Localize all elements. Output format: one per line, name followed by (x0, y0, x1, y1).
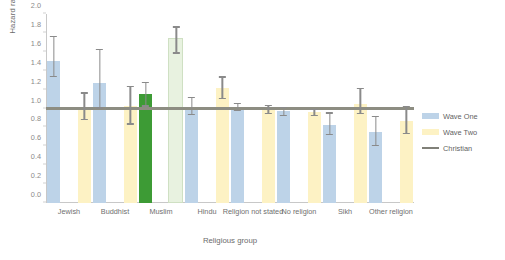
y-axis-tick-label: 1.6 (31, 38, 41, 47)
y-axis-tick-label: 1.4 (31, 57, 41, 66)
legend-swatch-icon (422, 129, 439, 135)
error-bar (130, 86, 131, 125)
error-bar-cap-bottom (96, 107, 103, 108)
error-bar (99, 49, 100, 109)
error-bar (375, 116, 376, 146)
error-bar (222, 76, 223, 99)
error-bar-cap-bottom (372, 145, 379, 146)
error-bar-cap-top (142, 82, 149, 83)
y-axis-tick-label: 1.8 (31, 19, 41, 28)
legend-swatch-icon (422, 113, 439, 119)
y-axis-tick-label: 2.0 (31, 1, 41, 10)
chart-legend: Wave OneWave TwoChristian (422, 108, 502, 156)
hazard-ratio-chart: Hazard ratio 0.00.20.40.60.81.01.21.41.6… (0, 0, 505, 260)
error-bar (329, 112, 330, 135)
error-bar (360, 88, 361, 114)
error-bar-cap-top (357, 88, 364, 89)
error-bar-cap-top (127, 86, 134, 87)
error-bar-cap-bottom (234, 110, 241, 111)
bar-wave-two (262, 109, 275, 203)
bar-wave-two (354, 104, 367, 203)
legend-item[interactable]: Wave Two (422, 124, 502, 140)
error-bar (237, 103, 238, 112)
bar-wave-two (78, 109, 91, 204)
error-bar-cap-bottom (265, 113, 272, 114)
y-axis-tick-label: 0.8 (31, 114, 41, 123)
bar-wave-one (139, 94, 152, 203)
error-bar-cap-bottom (81, 119, 88, 120)
error-bar (53, 36, 54, 78)
error-bar-cap-top (403, 106, 410, 107)
error-bar-cap-bottom (326, 134, 333, 135)
x-axis-category-label: Other religion (353, 208, 429, 217)
error-bar-cap-top (96, 49, 103, 50)
legend-item-label: Christian (443, 144, 472, 153)
y-axis-tick-label: 1.0 (31, 95, 41, 104)
y-axis-tick-label: 0.6 (31, 133, 41, 142)
y-axis-tick-label: 0.0 (31, 190, 41, 199)
x-axis-title: Religious group (46, 236, 414, 245)
legend-line-icon (422, 147, 439, 149)
error-bar-cap-bottom (403, 133, 410, 134)
error-bar-cap-top (372, 116, 379, 117)
error-bar (406, 106, 407, 134)
error-bar-cap-bottom (173, 52, 180, 53)
y-axis-title: Hazard ratio (8, 0, 17, 72)
error-bar-cap-bottom (127, 123, 134, 124)
y-axis-tick-label: 0.2 (31, 171, 41, 180)
error-bar (283, 107, 284, 116)
error-bar-cap-top (81, 92, 88, 93)
bar-wave-one (185, 107, 198, 203)
legend-item[interactable]: Christian (422, 140, 502, 156)
legend-item[interactable]: Wave One (422, 108, 502, 124)
bar-wave-two (216, 88, 229, 203)
error-bar-cap-bottom (357, 113, 364, 114)
error-bar-cap-top (188, 97, 195, 98)
bar-wave-one (323, 125, 336, 203)
error-bar (191, 97, 192, 115)
bar-wave-two (308, 112, 321, 203)
error-bar-cap-top (219, 76, 226, 77)
bar-wave-one (231, 108, 244, 203)
legend-item-label: Wave Two (443, 128, 477, 137)
error-bar-cap-bottom (188, 114, 195, 115)
error-bar-cap-top (50, 36, 57, 37)
bar-wave-one (277, 111, 290, 203)
error-bar (314, 109, 315, 117)
error-bar-cap-top (234, 103, 241, 104)
error-bar-cap-bottom (50, 76, 57, 77)
bar-wave-two (168, 38, 183, 203)
error-bar (84, 92, 85, 119)
error-bar-cap-top (280, 107, 287, 108)
error-bar (145, 82, 146, 107)
error-bar-cap-top (265, 105, 272, 106)
error-bar-cap-bottom (311, 115, 318, 116)
y-axis-tick-label: 1.2 (31, 76, 41, 85)
error-bar (268, 105, 269, 114)
error-bar-cap-bottom (280, 115, 287, 116)
error-bar (176, 26, 177, 53)
error-bar-cap-bottom (142, 105, 149, 106)
legend-item-label: Wave One (443, 112, 478, 121)
bar-wave-one (47, 61, 60, 203)
error-bar-cap-bottom (219, 98, 226, 99)
error-bar-cap-top (173, 26, 180, 27)
error-bar-cap-top (311, 109, 318, 110)
error-bar-cap-top (326, 112, 333, 113)
plot-area: Hazard ratio 0.00.20.40.60.81.01.21.41.6… (46, 14, 414, 203)
y-axis-tick-label: 0.4 (31, 152, 41, 161)
